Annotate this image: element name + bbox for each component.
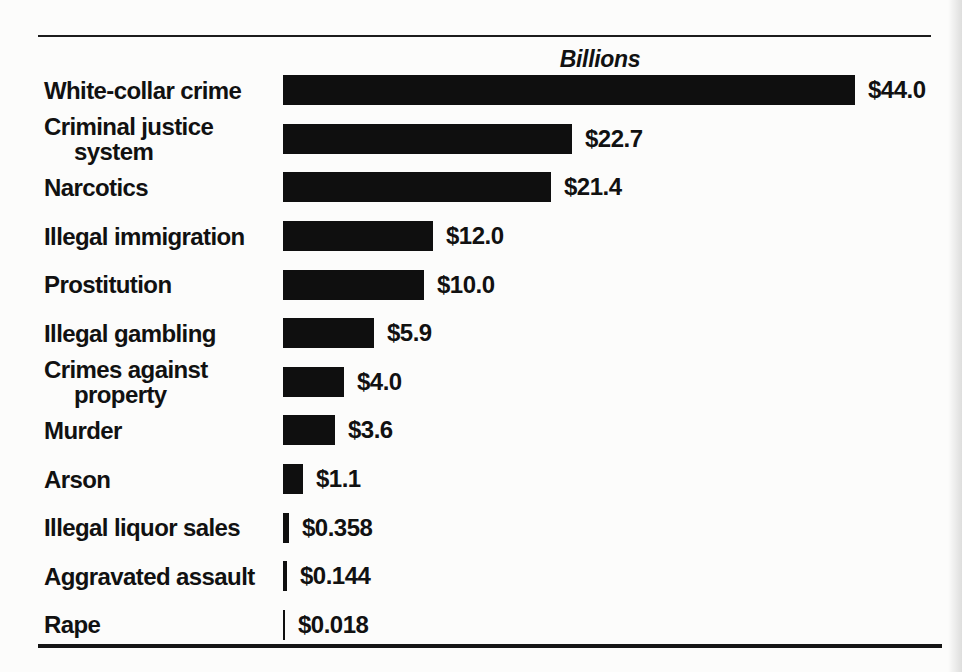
bar [283, 172, 551, 202]
value-label: $0.018 [298, 611, 368, 639]
bar [283, 221, 433, 251]
chart-row: Illegal gambling $5.9 [0, 309, 962, 358]
value-label: $3.6 [348, 416, 393, 444]
scanned-chart-page: Billions White-collar crime $44.0 Crimin… [0, 0, 962, 672]
category-label: Illegal liquor sales [0, 515, 283, 540]
bar [283, 75, 855, 105]
category-label: Illegal gambling [0, 321, 283, 346]
chart-row: Prostitution $10.0 [0, 260, 962, 309]
bar-chart: White-collar crime $44.0 Criminal justic… [0, 66, 962, 649]
bar-cell: $44.0 [283, 75, 962, 105]
bar [283, 464, 303, 494]
chart-row: Narcotics $21.4 [0, 163, 962, 212]
bar [283, 415, 335, 445]
category-label-line: Murder [44, 418, 283, 443]
top-rule [38, 35, 931, 37]
bar-cell: $10.0 [283, 270, 962, 300]
bar-cell: $0.144 [283, 561, 962, 591]
bar [283, 318, 374, 348]
bar-cell: $12.0 [283, 221, 962, 251]
chart-row: Illegal liquor sales $0.358 [0, 503, 962, 552]
category-label: White-collar crime [0, 78, 283, 103]
category-label: Crimes againstproperty [0, 357, 283, 407]
value-label: $5.9 [387, 319, 432, 347]
category-label-line: Rape [44, 612, 283, 637]
category-label: Aggravated assault [0, 564, 283, 589]
bar-cell: $4.0 [283, 367, 962, 397]
chart-row: Aggravated assault $0.144 [0, 552, 962, 601]
chart-row: Criminal justicesystem $22.7 [0, 115, 962, 164]
value-label: $4.0 [357, 368, 402, 396]
value-label: $10.0 [437, 271, 495, 299]
category-label-line: Illegal liquor sales [44, 515, 283, 540]
bar-cell: $0.018 [283, 610, 962, 640]
category-label-line: Illegal gambling [44, 321, 283, 346]
category-label: Prostitution [0, 272, 283, 297]
bar-cell: $1.1 [283, 464, 962, 494]
category-label: Criminal justicesystem [0, 114, 283, 164]
bar-cell: $3.6 [283, 415, 962, 445]
category-label-line: system [44, 139, 283, 164]
category-label: Narcotics [0, 175, 283, 200]
category-label: Arson [0, 467, 283, 492]
bar [283, 610, 285, 640]
value-label: $21.4 [564, 173, 622, 201]
bar [283, 367, 344, 397]
chart-row: Rape $0.018 [0, 601, 962, 650]
bar [283, 270, 424, 300]
bar [283, 561, 287, 591]
chart-row: Murder $3.6 [0, 406, 962, 455]
bar-cell: $22.7 [283, 124, 962, 154]
value-label: $1.1 [316, 465, 361, 493]
category-label: Murder [0, 418, 283, 443]
bottom-rule [38, 644, 942, 648]
value-label: $44.0 [868, 76, 926, 104]
category-label-line: Prostitution [44, 272, 283, 297]
bar [283, 513, 289, 543]
category-label: Rape [0, 612, 283, 637]
category-label-line: Narcotics [44, 175, 283, 200]
value-label: $12.0 [446, 222, 504, 250]
category-label-line: Illegal immigration [44, 224, 283, 249]
value-label: $22.7 [585, 125, 643, 153]
value-label: $0.358 [302, 514, 372, 542]
chart-row: Illegal immigration $12.0 [0, 212, 962, 261]
bar-cell: $5.9 [283, 318, 962, 348]
chart-row: Arson $1.1 [0, 455, 962, 504]
value-label: $0.144 [300, 562, 370, 590]
bar-cell: $21.4 [283, 172, 962, 202]
category-label-line: Arson [44, 467, 283, 492]
chart-row: Crimes againstproperty $4.0 [0, 358, 962, 407]
category-label-line: White-collar crime [44, 78, 283, 103]
bar [283, 124, 572, 154]
category-label-line: Aggravated assault [44, 564, 283, 589]
category-label-line: property [44, 382, 283, 407]
category-label-line: Crimes against [44, 357, 283, 382]
bar-cell: $0.358 [283, 513, 962, 543]
category-label-line: Criminal justice [44, 114, 283, 139]
category-label: Illegal immigration [0, 224, 283, 249]
chart-row: White-collar crime $44.0 [0, 66, 962, 115]
